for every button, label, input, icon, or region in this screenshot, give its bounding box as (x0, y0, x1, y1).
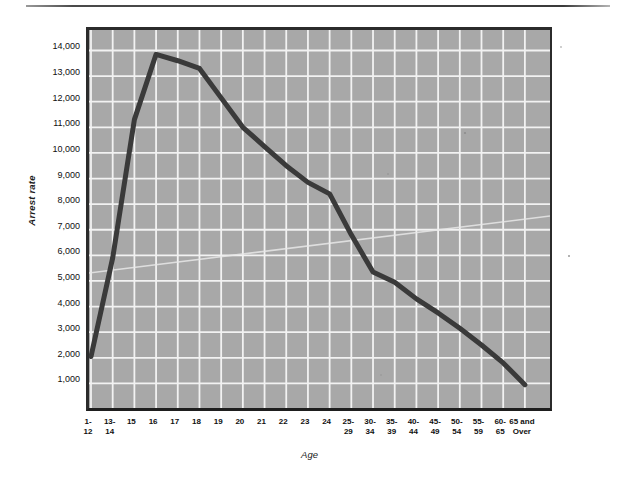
x-axis-tick-labels: 1-1213-141516171819202122232425-2930-343… (0, 417, 619, 451)
y-tick-label: 8,000 (20, 195, 80, 205)
vertical-gridlines (91, 30, 525, 409)
y-tick-label: 4,000 (20, 298, 80, 308)
y-tick-label: 6,000 (20, 246, 80, 256)
y-axis-tick-labels: 14,00013,00012,00011,00010,0009,0008,000… (16, 0, 80, 478)
y-tick-label: 14,000 (20, 41, 80, 51)
x-axis-title: Age (0, 449, 619, 460)
y-tick-label: 9,000 (20, 170, 80, 180)
header-rule (26, 5, 610, 7)
y-tick-label: 2,000 (20, 349, 80, 359)
y-tick-label: 3,000 (20, 323, 80, 333)
y-tick-label: 13,000 (20, 67, 80, 77)
x-tick-label: 65 andOver (502, 417, 542, 437)
chart-figure: Arrest rate 14,00013,00012,00011,00010,0… (0, 0, 619, 478)
plot-svg (89, 30, 550, 409)
y-tick-label: 12,000 (20, 93, 80, 103)
y-tick-label: 1,000 (20, 374, 80, 384)
y-tick-label: 5,000 (20, 272, 80, 282)
y-tick-label: 10,000 (20, 144, 80, 154)
x-tick-line: 65 and (502, 417, 542, 427)
y-tick-label: 11,000 (20, 118, 80, 128)
plot-area (86, 27, 552, 411)
x-tick-line: Over (502, 427, 542, 437)
x-tick-line: 14 (90, 427, 130, 437)
y-tick-label: 7,000 (20, 221, 80, 231)
